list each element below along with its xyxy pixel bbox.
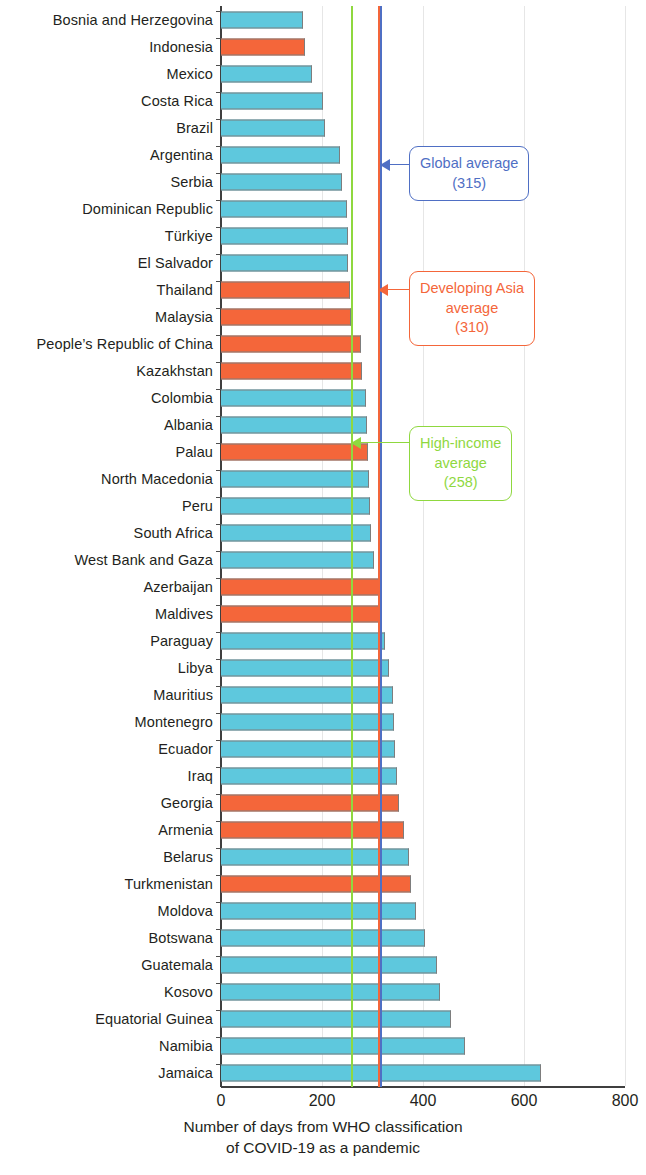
bar-row[interactable] [221,573,625,600]
bar[interactable] [221,281,350,298]
category-label: Paraguay [150,633,213,648]
bar-row[interactable] [221,789,625,816]
category-label: Palau [175,444,213,459]
category-label: Iraq [188,768,213,783]
category-label: North Macedonia [101,471,213,486]
bar[interactable] [221,605,380,622]
category-label: Colombia [151,390,213,405]
bar-row[interactable] [221,600,625,627]
bar-row[interactable] [221,1059,625,1086]
bar-row[interactable] [221,627,625,654]
callout-arrowhead-icon [351,437,361,449]
bar-row[interactable] [221,1032,625,1059]
bar[interactable] [221,173,342,190]
bar-chart: Bosnia and HerzegovinaIndonesiaMexicoCos… [0,0,646,1175]
category-label: Mauritius [153,687,213,702]
bar-row[interactable] [221,654,625,681]
category-label: Albania [164,417,213,432]
category-label: Thailand [157,282,213,297]
category-label: Peru [182,498,213,513]
bar[interactable] [221,929,425,946]
bar[interactable] [221,38,305,55]
bar[interactable] [221,956,437,973]
bar[interactable] [221,794,399,811]
category-label: Türkiye [165,228,213,243]
bar[interactable] [221,524,371,541]
category-label: Guatemala [141,957,213,972]
bar[interactable] [221,497,370,514]
bar-row[interactable] [221,6,625,33]
bar[interactable] [221,92,323,109]
callout-line: Global average [420,154,518,174]
bar[interactable] [221,659,389,676]
bar-row[interactable] [221,60,625,87]
bar-row[interactable] [221,897,625,924]
category-label: Botswana [149,930,213,945]
bar-row[interactable] [221,870,625,897]
category-label: Libya [178,660,213,675]
bar-row[interactable] [221,33,625,60]
x-axis-title: Number of days from WHO classificationof… [0,1117,646,1159]
bar-row[interactable] [221,357,625,384]
callout-arrowhead-icon [380,159,390,171]
bar-row[interactable] [221,1005,625,1032]
bar-row[interactable] [221,843,625,870]
category-label: Belarus [163,849,213,864]
x-axis-title-line: Number of days from WHO classification [0,1117,646,1138]
bar[interactable] [221,1037,465,1054]
bar[interactable] [221,200,347,217]
callout-leader-line [390,164,409,165]
bar[interactable] [221,416,367,433]
bar[interactable] [221,632,385,649]
bar[interactable] [221,11,303,28]
gridline [625,6,626,1086]
category-label: Ecuador [158,741,213,756]
bar[interactable] [221,902,416,919]
bar[interactable] [221,362,362,379]
bar-row[interactable] [221,951,625,978]
bar[interactable] [221,254,348,271]
bar-row[interactable] [221,546,625,573]
bar-row[interactable] [221,681,625,708]
bar-row[interactable] [221,762,625,789]
bar-row[interactable] [221,924,625,951]
category-label: Costa Rica [141,93,213,108]
bar-row[interactable] [221,735,625,762]
reference-line-high_income [351,6,353,1087]
bar-row[interactable] [221,978,625,1005]
bar[interactable] [221,335,361,352]
bar[interactable] [221,578,379,595]
bar-row[interactable] [221,222,625,249]
bar[interactable] [221,227,348,244]
bar-row[interactable] [221,114,625,141]
callout-line: (310) [420,318,524,338]
category-label: Jamaica [158,1065,213,1080]
bar-row[interactable] [221,87,625,114]
bar[interactable] [221,389,366,406]
bar[interactable] [221,443,368,460]
callout-leader-line [361,442,409,443]
callout-line: High-income [420,434,501,454]
category-label: El Salvador [138,255,213,270]
bar[interactable] [221,308,351,325]
bar[interactable] [221,740,395,757]
bar-row[interactable] [221,519,625,546]
bar-row[interactable] [221,708,625,735]
bar[interactable] [221,983,440,1000]
bar[interactable] [221,65,312,82]
bar-row[interactable] [221,816,625,843]
bar[interactable] [221,875,411,892]
bar[interactable] [221,821,404,838]
bar[interactable] [221,686,393,703]
x-tick-label: 800 [612,1092,639,1110]
bar[interactable] [221,146,340,163]
callout-line: average [420,454,501,474]
bar[interactable] [221,1010,451,1027]
bar[interactable] [221,713,394,730]
callout-line: (315) [420,174,518,194]
bar[interactable] [221,119,325,136]
bar[interactable] [221,767,397,784]
bar-row[interactable] [221,384,625,411]
category-label: Montenegro [135,714,213,729]
bar[interactable] [221,470,369,487]
